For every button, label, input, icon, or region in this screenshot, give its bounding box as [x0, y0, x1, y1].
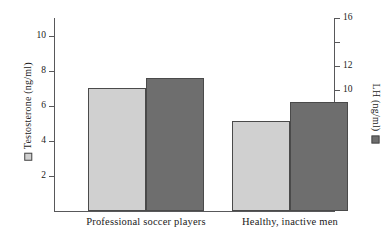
tick-label-right: 12: [343, 61, 353, 71]
tick-label-left: 10: [37, 31, 47, 41]
tick-right: [335, 66, 340, 67]
y-axis-left-title-text: Testosterone (ng/ml): [22, 62, 33, 149]
tick-label-right: 10: [343, 85, 353, 95]
tick-left: [49, 176, 54, 177]
bar-testosterone: [88, 88, 146, 211]
tick-label-left: 6: [41, 101, 46, 111]
x-axis-line: [54, 211, 335, 212]
y-axis-left-line: [54, 18, 55, 211]
tick-right: [335, 90, 340, 91]
tick-left: [49, 71, 54, 72]
tick-label-left: 2: [41, 171, 46, 181]
bar-testosterone: [232, 121, 290, 211]
bar-lh: [146, 78, 204, 211]
tick-left: [49, 106, 54, 107]
category-label: Healthy, inactive men: [182, 216, 389, 227]
bar-lh: [290, 102, 348, 211]
tick-right: [335, 18, 340, 19]
tick-right: [335, 42, 340, 43]
tick-left: [49, 36, 54, 37]
tick-label-left: 4: [41, 136, 46, 146]
tick-label-left: 8: [41, 66, 46, 76]
legend-swatch-testosterone: [24, 153, 32, 161]
tick-label-right: 16: [343, 13, 353, 23]
chart-figure: 2468102468101216Professional soccer play…: [0, 0, 389, 239]
y-axis-right-title: LH (ng/ml): [371, 54, 382, 174]
y-axis-right-title-text: LH (ng/ml): [371, 84, 382, 132]
tick-left: [49, 141, 54, 142]
legend-swatch-lh: [372, 135, 380, 143]
y-axis-left-title: Testosterone (ng/ml): [22, 37, 34, 187]
